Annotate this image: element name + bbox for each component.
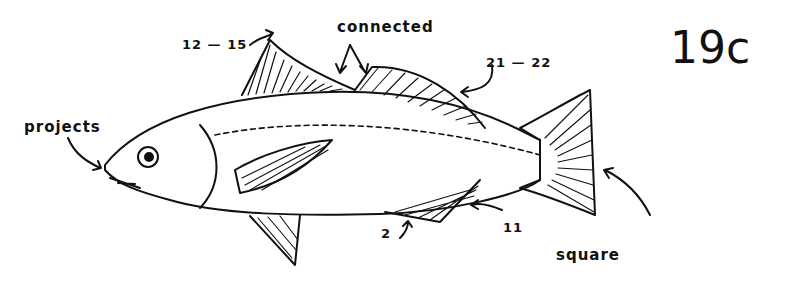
snout-projects-label: projects: [24, 118, 101, 136]
tail-square-label: square: [556, 246, 620, 264]
arrow-snout: [68, 138, 101, 170]
arrow-connected-right: [350, 45, 368, 73]
mouth: [110, 178, 140, 188]
dorsal-ray-count-label: 21 — 22: [486, 55, 551, 70]
connected-label: connected: [337, 18, 434, 36]
gill-cover: [200, 125, 217, 208]
pelvic-fin: [250, 215, 300, 265]
lateral-line: [215, 125, 540, 155]
figure-number: 19c: [670, 22, 750, 73]
pectoral-fin: [235, 140, 332, 193]
arrow-tail: [604, 168, 650, 215]
anal-ray-count-label: 11: [503, 220, 523, 235]
arrow-anal-spines: [400, 221, 412, 238]
anal-spine-count-label: 2: [381, 226, 391, 241]
arrow-connected-left: [336, 45, 350, 73]
dorsal-spine-count-label: 12 — 15: [182, 37, 247, 52]
arrow-anal-rays: [471, 200, 502, 210]
